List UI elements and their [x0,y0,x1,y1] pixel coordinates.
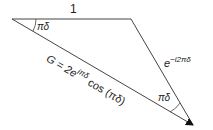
top-side-label: 1 [70,3,77,15]
angle-arc-left [33,19,36,31]
angle-bottom-label: πδ [158,93,170,103]
right-side-exponent: −i2πδ [170,55,191,64]
phasor-diagram: 1 πδ e−i2πδ πδ G = 2eiπδ cos (πδ) [0,0,213,130]
right-side-label: e−i2πδ [164,58,191,69]
angle-left-label: πδ [37,22,49,32]
angle-arc-bottom [170,103,180,112]
hypotenuse-vector [12,19,193,125]
right-side-vector [131,19,193,125]
